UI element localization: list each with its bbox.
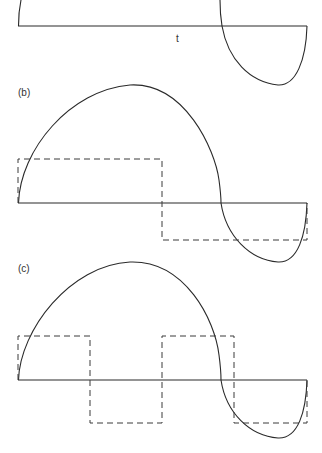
panel-c-continuous-waveform [19, 262, 308, 438]
panel-b-continuous-waveform [19, 85, 308, 262]
time-axis-label: t [176, 33, 179, 44]
waveform-diagram: t (b) (c) [0, 0, 322, 453]
panel-b-square-wave [18, 159, 307, 240]
panel-b-label: (b) [18, 87, 30, 98]
panel-a-curve-right [220, 0, 307, 85]
panel-a: t [18, 0, 307, 85]
panel-a-curve-left [19, 0, 22, 26]
panel-c-label: (c) [18, 263, 30, 274]
panel-c: (c) [18, 262, 307, 438]
panel-b: (b) [18, 85, 307, 262]
